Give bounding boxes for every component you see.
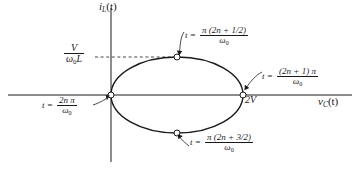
annotation-left-omega-subscript: 0 <box>69 110 72 116</box>
x-axis-label: vC(t) <box>318 96 338 108</box>
y-axis-label-argument: (t) <box>106 0 116 12</box>
leader-line-right <box>246 72 262 88</box>
annotation-bottom-fraction: π (2n + 3/2) ω0 <box>205 133 253 152</box>
y-intercept-inductance: L <box>76 53 82 64</box>
annotation-right: t = (2n + 1) π ω0 <box>262 67 318 86</box>
leader-line-top <box>180 32 185 53</box>
y-intercept-denominator: ω0L <box>64 54 84 64</box>
annotation-right-expression: (2n + 1) <box>279 66 309 76</box>
annotation-top-expression: (2n + 1/2) <box>209 25 246 35</box>
annotation-top-fraction: π (2n + 1/2) ω0 <box>200 26 248 45</box>
plot-canvas <box>0 0 359 173</box>
annotation-bottom-expression: (2n + 3/2) <box>214 132 251 142</box>
annotation-top-lhs: t = <box>185 31 198 40</box>
annotation-right-denominator: ω0 <box>277 77 318 86</box>
annotation-left-lhs: t = <box>42 101 55 110</box>
annotation-left-expression: 2n <box>59 95 68 105</box>
annotation-bottom-omega-subscript: 0 <box>231 147 234 153</box>
annotation-bottom-denominator: ω0 <box>205 143 253 152</box>
annotation-left-pi: π <box>70 95 75 105</box>
annotation-bottom: t = π (2n + 3/2) ω0 <box>190 133 253 152</box>
right-vertex-value-label: 2V <box>245 95 256 106</box>
y-intercept-label: V ω0L <box>64 43 84 64</box>
annotation-right-lhs: t = <box>262 72 275 81</box>
annotation-bottom-pi: π <box>207 132 212 142</box>
annotation-top-pi: π <box>202 25 207 35</box>
annotation-bottom-omega: ω <box>224 142 230 152</box>
y-axis-label-subscript: L <box>102 5 106 14</box>
annotation-left-omega: ω <box>62 105 68 115</box>
x-axis-label-argument: (t) <box>328 95 338 107</box>
annotation-right-fraction: (2n + 1) π ω0 <box>277 67 318 86</box>
y-intercept-fraction: V ω0L <box>64 43 84 64</box>
x-axis-label-subscript: C <box>323 100 328 109</box>
phase-plane-figure: iL(t) vC(t) V ω0L t = π (2n + 1/2) ω0 t … <box>0 0 359 173</box>
annotation-top: t = π (2n + 1/2) ω0 <box>185 26 248 45</box>
leader-arrow-bottom <box>178 134 183 139</box>
leader-arrow-right <box>244 85 249 91</box>
y-intercept-omega: ω <box>66 53 73 64</box>
y-intercept-omega-subscript: 0 <box>73 58 76 65</box>
annotation-right-pi: π <box>311 66 316 76</box>
annotation-left-denominator: ω0 <box>57 106 77 115</box>
annotation-right-omega-subscript: 0 <box>299 81 302 87</box>
annotation-left: t = 2n π ω0 <box>42 96 77 115</box>
annotation-left-fraction: 2n π ω0 <box>57 96 77 115</box>
annotation-top-denominator: ω0 <box>200 36 248 45</box>
annotation-bottom-lhs: t = <box>190 138 203 147</box>
annotation-top-omega: ω <box>219 35 225 45</box>
y-axis-label: iL(t) <box>99 1 117 13</box>
annotation-top-omega-subscript: 0 <box>226 40 229 46</box>
leader-line-left <box>93 97 108 105</box>
